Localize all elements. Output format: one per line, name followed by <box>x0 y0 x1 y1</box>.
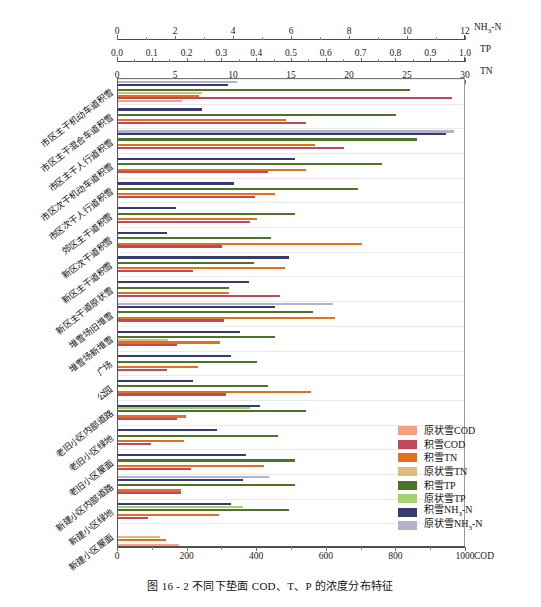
tp-tick-label: 1.0 <box>459 48 471 58</box>
legend-item[interactable]: 原状雪TN <box>398 465 541 479</box>
bar <box>118 196 255 198</box>
legend-swatch-ji_tn <box>398 453 417 462</box>
bar <box>118 380 193 382</box>
bar <box>118 468 191 470</box>
bar <box>118 163 382 165</box>
legend-label: 原状雪TP <box>424 493 466 504</box>
legend-item[interactable]: 原状雪COD <box>398 424 541 438</box>
bar-group <box>118 351 464 376</box>
bar <box>118 188 358 190</box>
bar <box>118 171 268 173</box>
legend-swatch-yuan_cod <box>398 426 417 435</box>
legend-swatch-yuan_tp <box>398 494 417 503</box>
nh3n-tick <box>117 36 118 40</box>
bar-group <box>118 252 464 277</box>
nh3n-tick <box>291 36 292 40</box>
legend-item[interactable]: 原状雪NH3-N <box>398 519 541 533</box>
bar-group <box>118 104 464 129</box>
bar <box>118 270 193 272</box>
axis-nh3n-title: NH3-N <box>474 22 501 37</box>
bar-group <box>118 153 464 178</box>
nh3n-tick <box>349 36 350 40</box>
category-gridline <box>118 153 464 154</box>
category-gridline <box>118 400 464 401</box>
bar <box>118 207 176 209</box>
bar-group <box>118 400 464 425</box>
bar <box>118 138 417 140</box>
axis-tp-title: TP <box>480 44 491 55</box>
bar-group <box>118 178 464 203</box>
bar <box>118 355 231 357</box>
nh3n-tick <box>175 36 176 40</box>
tp-tick <box>291 58 292 62</box>
tp-tick <box>187 58 188 62</box>
figure-root: 024681012 NH3-N 0.00.10.20.30.40.50.60.7… <box>0 0 541 607</box>
tp-tick <box>430 58 431 62</box>
bar <box>118 393 226 395</box>
legend-swatch-ji_cod <box>398 440 417 449</box>
tp-tick <box>361 58 362 62</box>
nh3n-tick-label: 6 <box>289 26 294 36</box>
bar <box>118 418 177 420</box>
axis-cod: 02004006008001000 <box>117 547 465 563</box>
bar <box>118 114 396 116</box>
category-gridline <box>118 227 464 228</box>
cod-tick-label: 800 <box>388 551 402 561</box>
bar <box>118 311 313 313</box>
bar <box>118 361 257 363</box>
bar <box>118 509 289 511</box>
tp-tick <box>256 58 257 62</box>
bar <box>118 410 306 412</box>
bar <box>118 232 167 234</box>
category-gridline <box>118 326 464 327</box>
cod-minor-tick <box>291 547 292 550</box>
bar-group <box>118 128 464 153</box>
nh3n-tick-label: 12 <box>460 26 470 36</box>
tp-minor-tick <box>204 59 205 62</box>
legend-swatch-ji_nh3n <box>398 508 417 517</box>
category-gridline <box>118 79 464 80</box>
tp-tick-label: 0.0 <box>111 48 123 58</box>
tp-tick-label: 0.8 <box>389 48 401 58</box>
bar <box>118 133 446 135</box>
tp-tick-label: 0.3 <box>215 48 227 58</box>
nh3n-tick-label: 0 <box>115 26 120 36</box>
bar <box>118 221 250 223</box>
tp-tick-label: 0.2 <box>181 48 193 58</box>
nh3n-minor-tick <box>262 37 263 40</box>
legend-label: 原状雪TN <box>424 466 467 477</box>
axis-tp: 0.00.10.20.30.40.50.60.70.80.91.0 <box>117 42 465 62</box>
legend-swatch-yuan_tn <box>398 467 417 476</box>
legend-label: 积雪TP <box>424 480 456 491</box>
nh3n-tick-label: 4 <box>231 26 236 36</box>
legend-label: 积雪TN <box>424 452 457 463</box>
legend-item[interactable]: 积雪COD <box>398 438 541 452</box>
nh3n-minor-tick <box>204 37 205 40</box>
category-label: 公园 <box>95 384 115 403</box>
bar <box>118 100 182 102</box>
category-gridline <box>118 351 464 352</box>
bar <box>118 539 166 541</box>
bar <box>118 517 148 519</box>
category-gridline <box>118 301 464 302</box>
tn-tick <box>465 80 466 84</box>
tp-tick-label: 0.7 <box>355 48 367 58</box>
legend-item[interactable]: 积雪TP <box>398 478 541 492</box>
nh3n-tick <box>465 36 466 40</box>
bar <box>118 147 344 149</box>
axis-cod-title: COD <box>474 551 494 562</box>
bar <box>118 429 217 431</box>
figure-caption: 图 16 - 2 不同下垫面 COD、T、P 的浓度分布特征 <box>0 577 541 593</box>
bar-group <box>118 202 464 227</box>
tp-minor-tick <box>308 59 309 62</box>
legend-item[interactable]: 积雪TN <box>398 451 541 465</box>
bar <box>118 108 202 110</box>
bar <box>118 443 151 445</box>
bar <box>118 385 268 387</box>
bar <box>118 158 295 160</box>
bar <box>118 213 295 215</box>
tp-tick-label: 0.6 <box>320 48 332 58</box>
bar <box>118 237 271 239</box>
cod-minor-tick <box>221 547 222 550</box>
nh3n-minor-tick <box>320 37 321 40</box>
